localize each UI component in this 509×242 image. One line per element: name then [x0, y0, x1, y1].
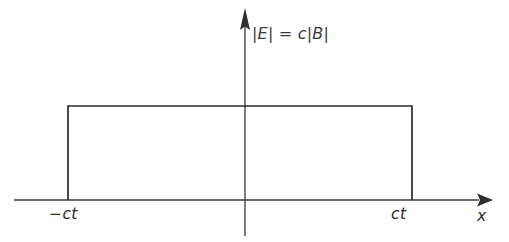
y-label-bar-close-2: |	[323, 24, 329, 43]
y-label-symbol-c: c	[298, 24, 307, 43]
figure-canvas: −ct ct x |E| = c|B|	[0, 0, 509, 242]
tick-label-left: −ct	[49, 205, 78, 223]
y-label-symbol-b: B	[312, 24, 323, 43]
y-label-equals: =	[274, 24, 298, 43]
tick-label-right: ct	[391, 205, 407, 223]
x-axis-label: x	[476, 207, 487, 225]
y-axis-label: |E| = c|B|	[252, 24, 329, 43]
labels-layer: −ct ct x |E| = c|B|	[0, 0, 509, 242]
